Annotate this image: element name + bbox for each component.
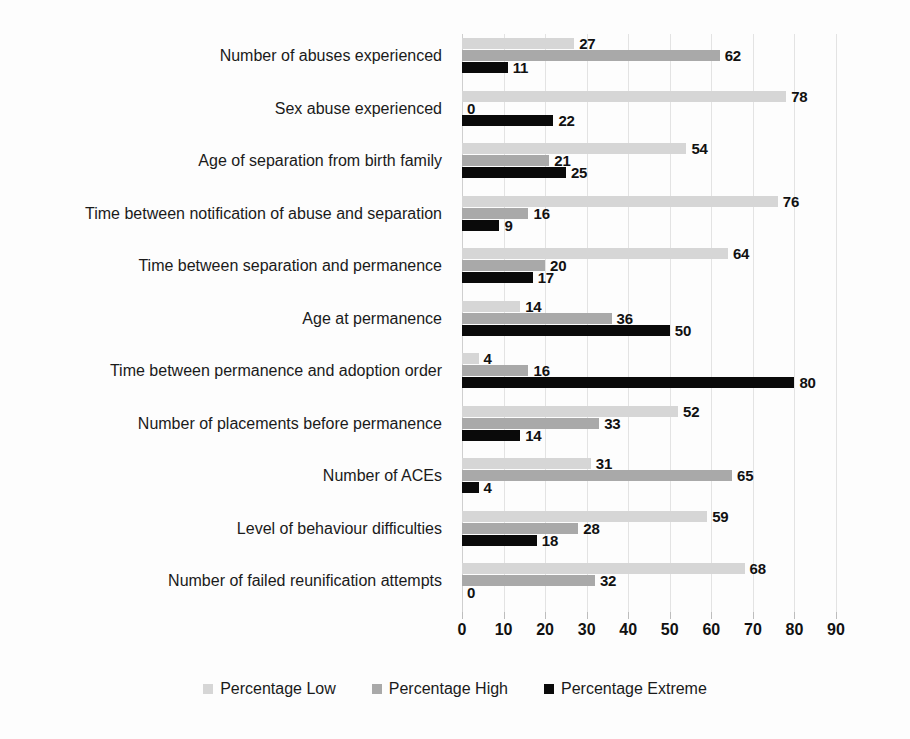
bar-extreme[interactable] [462,430,520,441]
legend-swatch-icon [544,684,554,694]
bar-value-label: 18 [542,532,558,549]
bar-value-label: 17 [538,269,554,286]
bar-high[interactable] [462,155,549,166]
bar-extreme[interactable] [462,167,566,178]
plot-area: 2762117802254212576169642017143650416805… [462,34,836,612]
x-axis: 0102030405060708090 [462,612,836,646]
category-label: Number of placements before permanence [138,416,442,432]
bar-extreme[interactable] [462,325,670,336]
bar-low[interactable] [462,406,678,417]
bar-group: 143650 [462,297,836,350]
bar-high[interactable] [462,575,595,586]
bar-value-label: 11 [513,59,528,76]
legend-item-low[interactable]: Percentage Low [203,680,336,698]
legend-label: Percentage Extreme [561,680,707,698]
x-tick-label: 80 [786,621,804,639]
bar-value-label: 65 [737,467,753,484]
bar-extreme[interactable] [462,62,508,73]
category-label: Level of behaviour difficulties [237,521,442,537]
x-tick-30 [587,612,588,619]
bar-extreme[interactable] [462,272,533,283]
bar-value-label: 50 [675,322,691,339]
legend-swatch-icon [203,684,213,694]
x-tick-80 [794,612,795,619]
bar-value-label: 80 [799,374,815,391]
bar-value-label: 62 [725,47,741,64]
legend-item-extreme[interactable]: Percentage Extreme [544,680,707,698]
x-tick-label: 40 [619,621,637,639]
bar-extreme[interactable] [462,482,479,493]
bar-value-label: 32 [600,572,616,589]
bar-value-label: 59 [712,508,728,525]
bar-low[interactable] [462,353,479,364]
x-tick-label: 70 [744,621,762,639]
category-label: Number of ACEs [323,468,442,484]
bar-low[interactable] [462,301,520,312]
category-label: Age of separation from birth family [198,153,442,169]
bar-low[interactable] [462,38,574,49]
bar-low[interactable] [462,248,728,259]
x-tick-label: 10 [495,621,513,639]
x-tick-10 [504,612,505,619]
bar-value-label: 78 [791,88,807,105]
bar-extreme[interactable] [462,377,794,388]
legend-label: Percentage High [389,680,508,698]
bar-group: 276211 [462,34,836,87]
bar-value-label: 14 [525,427,541,444]
x-tick-90 [836,612,837,619]
bar-high[interactable] [462,208,528,219]
bar-group: 523314 [462,402,836,455]
bar-group: 68320 [462,559,836,612]
x-tick-20 [545,612,546,619]
bar-extreme[interactable] [462,220,499,231]
legend-swatch-icon [372,684,382,694]
bar-high[interactable] [462,470,732,481]
legend-item-high[interactable]: Percentage High [372,680,508,698]
category-label: Time between notification of abuse and s… [85,206,442,222]
bar-value-label: 4 [484,479,492,496]
category-axis-labels: Number of abuses experiencedSex abuse ex… [0,34,452,612]
bar-value-label: 16 [533,205,549,222]
category-label: Number of abuses experienced [220,48,442,64]
bar-low[interactable] [462,458,591,469]
bar-group: 592818 [462,507,836,560]
bar-value-label: 0 [467,584,475,601]
bar-high[interactable] [462,50,720,61]
bar-group: 31654 [462,454,836,507]
bar-value-label: 54 [691,140,707,157]
bar-extreme[interactable] [462,535,537,546]
x-tick-label: 50 [661,621,679,639]
bar-low[interactable] [462,196,778,207]
bar-group: 642017 [462,244,836,297]
bar-value-label: 52 [683,403,699,420]
bar-high[interactable] [462,523,578,534]
x-tick-label: 20 [536,621,554,639]
bar-value-label: 76 [783,193,799,210]
category-label: Time between separation and permanence [138,258,442,274]
x-tick-60 [711,612,712,619]
x-tick-label: 90 [827,621,845,639]
bar-group: 78022 [462,87,836,140]
x-tick-40 [628,612,629,619]
chart-legend: Percentage LowPercentage HighPercentage … [0,680,910,698]
bar-value-label: 28 [583,520,599,537]
bar-value-label: 25 [571,164,587,181]
bar-extreme[interactable] [462,115,553,126]
bar-high[interactable] [462,313,612,324]
x-tick-50 [670,612,671,619]
gridline-90 [836,34,837,612]
bar-chart: 2762117802254212576169642017143650416805… [0,0,910,739]
category-label: Sex abuse experienced [275,101,442,117]
x-tick-label: 0 [458,621,467,639]
bar-rows: 2762117802254212576169642017143650416805… [462,34,836,612]
bar-low[interactable] [462,143,686,154]
bar-group: 542125 [462,139,836,192]
bar-high[interactable] [462,260,545,271]
bar-value-label: 22 [558,112,574,129]
bar-group: 76169 [462,192,836,245]
category-label: Age at permanence [302,311,442,327]
x-tick-70 [753,612,754,619]
bar-high[interactable] [462,365,528,376]
bar-low[interactable] [462,91,786,102]
legend-label: Percentage Low [220,680,336,698]
